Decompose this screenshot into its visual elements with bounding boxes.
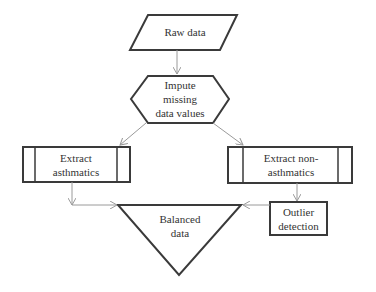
edge-impute-to-asthmatics (120, 123, 146, 145)
extract-non-asthmatics-label: Extract non- asthmatics (244, 151, 338, 179)
outlier-detection-label: Outlier detection (270, 205, 327, 233)
edge-impute-to-non-asthmatics (213, 123, 243, 145)
extract-asthmatics-label: Extract asthmatics (36, 151, 116, 179)
balanced-data-label: Balanced data (140, 212, 220, 240)
raw-data-label: Raw data (140, 25, 230, 39)
impute-label: Impute missing data values (135, 78, 225, 120)
flowchart-canvas (0, 0, 376, 292)
